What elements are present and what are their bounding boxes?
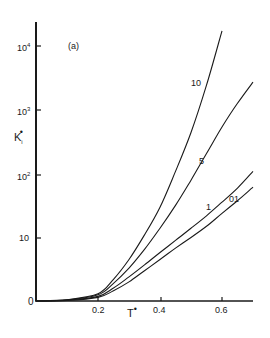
x-tick-label-0.6: 0.6: [215, 306, 228, 315]
curve-1: [36, 171, 253, 301]
y-tick-label-1e2: 102: [17, 171, 30, 182]
curve-5: [36, 82, 253, 301]
y-tick-label-1e3: 103: [17, 106, 30, 117]
x-axis-label: T•: [127, 305, 137, 319]
curve-group: [36, 31, 253, 301]
y-axis-label: Ki•: [14, 128, 23, 145]
curve-label-10: 10: [191, 79, 201, 88]
curve-label-1: 1: [206, 203, 211, 212]
x-tick-label-0.2: 0.2: [92, 306, 105, 315]
y-tick-label-0: 0: [28, 297, 34, 307]
curve-10: [36, 31, 222, 301]
x-tick-label-0.4: 0.4: [153, 306, 166, 315]
curve-label-5: 5: [199, 157, 204, 166]
chart-plot-area: [0, 0, 270, 338]
panel-label: (a): [68, 42, 79, 51]
y-tick-label-10: 10: [19, 234, 29, 243]
curve-label-0.1: 01: [229, 195, 239, 204]
y-tick-label-1e4: 104: [17, 42, 30, 53]
